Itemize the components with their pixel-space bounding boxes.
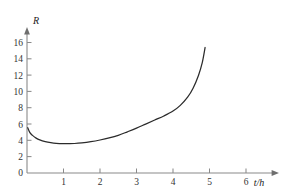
y-tick-label-2: 2 bbox=[18, 152, 23, 162]
x-tick-label-4: 4 bbox=[171, 177, 176, 187]
data-curve-r-of-t bbox=[28, 47, 205, 143]
y-tick-label-6: 6 bbox=[18, 120, 23, 130]
y-tick-label-16: 16 bbox=[14, 38, 24, 48]
x-tick-label-1: 1 bbox=[61, 177, 66, 187]
x-tick-marks bbox=[64, 169, 247, 174]
x-tick-label-3: 3 bbox=[134, 177, 139, 187]
y-tick-label-4: 4 bbox=[18, 136, 23, 146]
y-axis bbox=[24, 27, 30, 173]
x-tick-labels: 1 2 3 4 5 6 bbox=[61, 177, 249, 187]
x-tick-label-5: 5 bbox=[207, 177, 212, 187]
y-axis-arrow-icon bbox=[24, 27, 30, 34]
y-tick-marks bbox=[27, 43, 32, 157]
x-axis bbox=[27, 170, 279, 176]
plot-area: 16 14 12 10 8 6 4 2 0 1 2 3 4 5 6 R t/h bbox=[0, 0, 292, 196]
x-axis-title: t/h bbox=[254, 177, 265, 188]
chart-figure: 16 14 12 10 8 6 4 2 0 1 2 3 4 5 6 R t/h bbox=[0, 0, 292, 196]
y-tick-label-10: 10 bbox=[14, 87, 24, 97]
y-tick-label-14: 14 bbox=[14, 54, 24, 64]
x-tick-label-6: 6 bbox=[244, 177, 249, 187]
y-tick-label-12: 12 bbox=[14, 71, 24, 81]
x-tick-label-2: 2 bbox=[98, 177, 103, 187]
x-axis-arrow-icon bbox=[272, 170, 279, 176]
y-tick-labels: 16 14 12 10 8 6 4 2 0 bbox=[14, 38, 24, 178]
y-axis-title: R bbox=[32, 15, 39, 26]
y-tick-label-0: 0 bbox=[18, 168, 23, 178]
y-tick-label-8: 8 bbox=[18, 103, 23, 113]
